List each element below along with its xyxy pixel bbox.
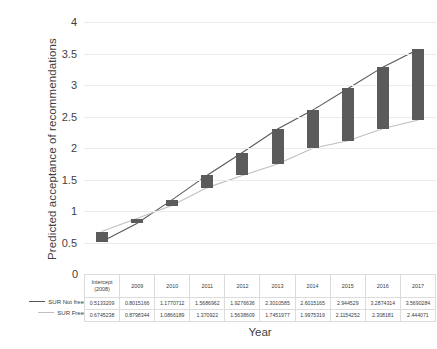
table-cell: 0.6745238 (85, 310, 120, 322)
table-header-cell: 2009 (120, 275, 155, 298)
table-cell: 2.6015165 (295, 298, 330, 310)
y-axis-zero-label: 0 (26, 268, 78, 280)
bar (307, 110, 319, 148)
legend-label: SUR Free (57, 310, 84, 316)
y-axis-tick-label: 3.5 (25, 48, 77, 60)
table-header-cell: 2017 (400, 275, 435, 298)
bar (236, 153, 248, 176)
series-line (102, 49, 419, 242)
gridline (84, 22, 436, 23)
legend: SUR Not freeSUR Free (14, 296, 84, 318)
table-header-cell: 2016 (365, 275, 400, 298)
table-header-cell: 2014 (295, 275, 330, 298)
table-cell: 0.8015166 (120, 298, 155, 310)
table-header-row: Intercept(2008)2009201020112012201320142… (85, 275, 436, 298)
bar (377, 67, 389, 129)
table-cell: 2.308181 (365, 310, 400, 322)
plot-area: 0.511.522.533.54 (84, 22, 436, 274)
gridline (84, 148, 436, 149)
data-table-wrapper: Intercept(2008)2009201020112012201320142… (84, 274, 436, 322)
gridline (84, 211, 436, 212)
bar (201, 175, 213, 187)
y-axis-tick-label: 1 (25, 205, 77, 217)
gridline (84, 180, 436, 181)
table-cell: 1.370922 (190, 310, 225, 322)
table-cell: 1.5638609 (225, 310, 260, 322)
legend-item[interactable]: SUR Free (14, 307, 84, 318)
gridline (84, 243, 436, 244)
gridline (84, 54, 436, 55)
y-axis-tick-label: 3 (25, 79, 77, 91)
table-header-cell: 2013 (260, 275, 295, 298)
legend-label: SUR Not free (48, 299, 84, 305)
table-cell: 2.3010585 (260, 298, 295, 310)
table-cell: 3.2874314 (365, 298, 400, 310)
table-cell: 0.5133209 (85, 298, 120, 310)
chart-container: Predicted acceptance of recommendations … (0, 0, 437, 349)
bar (272, 129, 284, 164)
table-header-cell: 2010 (155, 275, 190, 298)
table-header-cell: 2011 (190, 275, 225, 298)
table-cell: 3.5690284 (400, 298, 435, 310)
x-axis-title: Year (84, 326, 436, 338)
table-row: 0.51332090.80151661.17707121.56869621.92… (85, 298, 436, 310)
table-cell: 0.8798344 (120, 310, 155, 322)
table-cell: 1.1770712 (155, 298, 190, 310)
table-header-cell: 2015 (330, 275, 365, 298)
y-axis-tick-label: 0.5 (25, 237, 77, 249)
table-row: 0.67452380.87983441.08661891.3709221.563… (85, 310, 436, 322)
table-cell: 2.444071 (400, 310, 435, 322)
table-cell: 2.1154252 (330, 310, 365, 322)
legend-item[interactable]: SUR Not free (14, 296, 84, 307)
table-cell: 2.944529 (330, 298, 365, 310)
y-axis-tick-label: 2.5 (25, 111, 77, 123)
bar (96, 232, 108, 242)
y-axis-tick-label: 1.5 (25, 174, 77, 186)
y-axis-tick-label: 4 (25, 16, 77, 28)
bar (166, 200, 178, 206)
table-cell: 1.0866189 (155, 310, 190, 322)
bar (131, 219, 143, 224)
table-cell: 1.5686962 (190, 298, 225, 310)
table-header-cell: 2012 (225, 275, 260, 298)
table-header-cell: Intercept(2008) (85, 275, 120, 298)
y-axis-tick-label: 2 (25, 142, 77, 154)
bar (342, 88, 354, 140)
table-cell: 1.9975319 (295, 310, 330, 322)
legend-line-swatch (38, 312, 54, 313)
data-table: Intercept(2008)2009201020112012201320142… (84, 274, 436, 322)
table-cell: 1.9276636 (225, 298, 260, 310)
bar (412, 49, 424, 120)
legend-line-swatch (29, 301, 45, 302)
table-cell: 1.7451977 (260, 310, 295, 322)
